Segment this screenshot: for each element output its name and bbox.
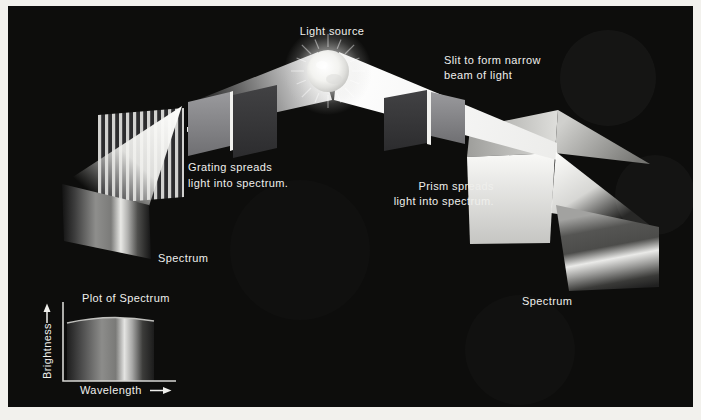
plot-title: Plot of Spectrum [82, 292, 170, 304]
grating-label-line2: light into spectrum. [188, 177, 288, 189]
plot-y-axis-label: Brightness [41, 323, 53, 379]
screen-panel-light-left [188, 92, 230, 156]
plot-spectrum-fill [67, 317, 154, 381]
prism-label-line1: Prism spreads [419, 180, 495, 192]
slit-opening-left [230, 91, 233, 151]
prism-label-line2: light into spectrum. [394, 195, 494, 207]
screen-panel-dark-right [384, 90, 427, 151]
grating-label-line1: Grating spreads [188, 161, 272, 173]
light-source-ball [307, 50, 349, 92]
textbook-figure-page: Light source Slit to form narrow beam of… [0, 0, 701, 420]
spectrum-left-label: Spectrum [158, 252, 208, 264]
screen-panel-light-right [431, 92, 465, 144]
slit-label-line1: Slit to form narrow [444, 54, 541, 66]
slit-opening-right [427, 91, 431, 145]
light-source-label: Light source [300, 25, 365, 37]
slit-label-line2: beam of light [444, 69, 512, 81]
plot-x-axis-label: Wavelength [80, 384, 142, 396]
light-source [284, 27, 372, 115]
figure-canvas: Light source Slit to form narrow beam of… [0, 0, 701, 420]
screen-panel-dark-left [233, 85, 277, 158]
spectrum-right-label: Spectrum [522, 295, 572, 307]
